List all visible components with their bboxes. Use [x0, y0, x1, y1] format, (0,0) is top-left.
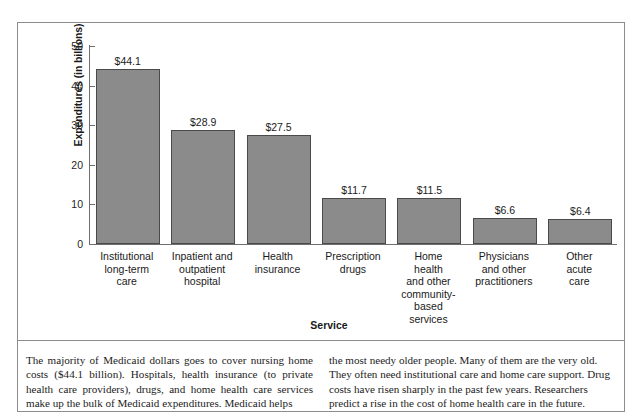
bar: $28.9	[171, 130, 235, 244]
x-axis-category-label: Physiciansand otherpractitioners	[462, 250, 545, 288]
bar: $11.7	[322, 198, 386, 244]
category-label-line: care	[116, 275, 136, 287]
category-label-line: community-	[401, 288, 455, 300]
y-axis-line	[89, 45, 90, 245]
category-label-line: Prescription	[325, 250, 380, 262]
x-axis-category-label: Inpatient andoutpatienthospital	[160, 250, 243, 288]
bar-value-label: $6.4	[570, 205, 590, 217]
y-axis-tick	[90, 244, 95, 245]
y-axis-tick	[90, 165, 95, 166]
caption-column-right: the most needy older people. Many of the…	[329, 353, 616, 411]
category-label-line: health	[414, 263, 443, 275]
category-label-line: outpatient	[179, 263, 225, 275]
category-label-line: care	[569, 275, 589, 287]
caption-block: The majority of Medicaid dollars goes to…	[18, 341, 624, 411]
y-axis-tick-label: 40	[71, 80, 83, 92]
y-axis-tick-label: 20	[71, 159, 83, 171]
category-label-line: and other	[406, 275, 450, 287]
category-label-line: based	[414, 300, 443, 312]
plot-area: 01020304050 $44.1$28.9$27.5$11.7$11.5$6.…	[89, 46, 617, 244]
y-axis-tick-label: 30	[71, 119, 83, 131]
bar: $11.5	[397, 198, 461, 244]
bar: $6.6	[473, 218, 537, 244]
bar: $6.4	[548, 219, 612, 244]
x-axis-category-label: Prescriptiondrugs	[311, 250, 394, 275]
bar-value-label: $11.7	[341, 184, 367, 196]
bar-value-label: $11.5	[417, 184, 443, 196]
y-axis-tick-label: 10	[71, 198, 83, 210]
y-axis-tick-label: 0	[77, 238, 83, 250]
bar-value-label: $27.5	[265, 121, 291, 133]
category-label-line: acute	[566, 263, 592, 275]
x-axis-category-label: Homehealthand othercommunity-basedservic…	[387, 250, 470, 326]
bar-value-label: $28.9	[190, 116, 216, 128]
bar: $27.5	[247, 135, 311, 244]
category-label-line: Other	[566, 250, 592, 262]
category-label-line: Institutional	[100, 250, 153, 262]
y-axis-tick-label: 50	[71, 40, 83, 52]
x-axis-category-label: Institutionallong-termcare	[85, 250, 168, 288]
category-label-line: Health	[262, 250, 292, 262]
x-axis-title: Service	[264, 319, 394, 331]
x-axis-category-label: Otheracutecare	[538, 250, 621, 288]
bar-value-label: $44.1	[115, 55, 141, 67]
bar-value-label: $6.6	[495, 204, 515, 216]
category-label-line: services	[409, 313, 448, 325]
y-axis-tick	[90, 86, 95, 87]
category-label-line: Physicians	[479, 250, 529, 262]
category-label-line: long-term	[105, 263, 149, 275]
category-label-line: practitioners	[475, 275, 532, 287]
category-label-line: Inpatient and	[172, 250, 233, 262]
y-axis-tick	[90, 125, 95, 126]
category-label-line: insurance	[255, 263, 301, 275]
caption-column-left: The majority of Medicaid dollars goes to…	[26, 353, 313, 411]
figure-frame: Expenditures (in billions) 01020304050 $…	[17, 22, 625, 412]
category-label-line: drugs	[340, 263, 366, 275]
x-axis-category-label: Healthinsurance	[236, 250, 319, 275]
y-axis-tick	[90, 46, 95, 47]
y-axis-tick	[90, 204, 95, 205]
bar: $44.1	[96, 69, 160, 244]
category-label-line: hospital	[184, 275, 220, 287]
bar-chart: Expenditures (in billions) 01020304050 $…	[18, 23, 624, 340]
x-axis-line	[89, 244, 617, 245]
category-label-line: and other	[482, 263, 526, 275]
category-label-line: Home	[414, 250, 442, 262]
